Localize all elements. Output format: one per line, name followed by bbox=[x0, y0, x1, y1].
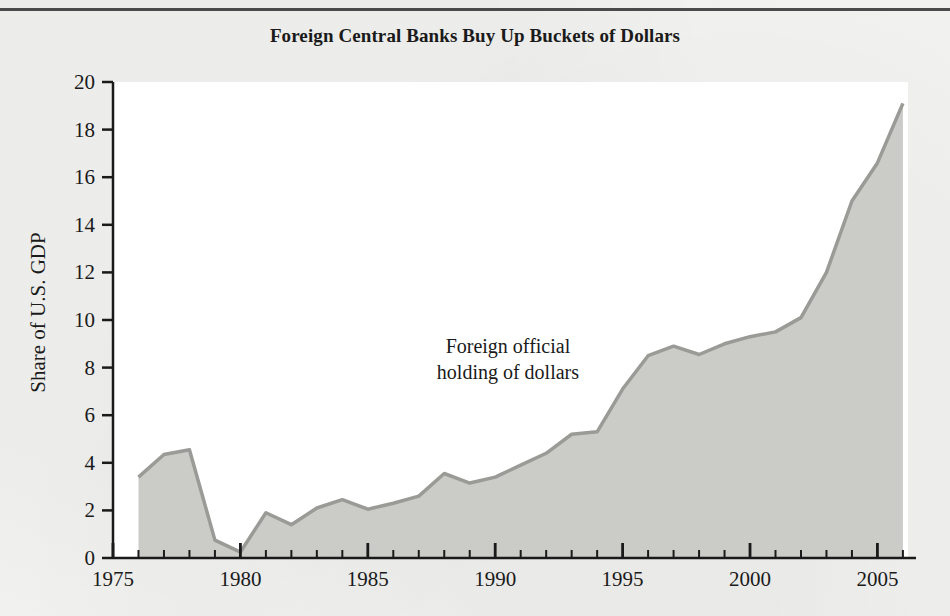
x-tick-label: 1985 bbox=[347, 567, 389, 591]
y-tick-label: 16 bbox=[74, 165, 95, 189]
x-tick-label: 1990 bbox=[474, 567, 516, 591]
y-tick-label: 14 bbox=[74, 213, 96, 237]
annotation-line-2: holding of dollars bbox=[437, 361, 579, 384]
y-axis-label: Share of U.S. GDP bbox=[26, 183, 51, 443]
y-tick-label: 12 bbox=[74, 260, 95, 284]
annotation-line-1: Foreign official bbox=[446, 335, 571, 358]
x-tick-label: 1995 bbox=[602, 567, 644, 591]
y-axis-tick-labels: 02468101214161820 bbox=[74, 70, 96, 570]
y-tick-label: 8 bbox=[85, 356, 96, 380]
x-tick-label: 2005 bbox=[856, 567, 898, 591]
x-tick-label: 1975 bbox=[92, 567, 134, 591]
y-tick-label: 20 bbox=[74, 70, 95, 94]
area-chart: 02468101214161820 1975198019851990199520… bbox=[0, 0, 950, 616]
chart-title: Foreign Central Banks Buy Up Buckets of … bbox=[0, 25, 950, 47]
x-tick-label: 1980 bbox=[219, 567, 261, 591]
y-tick-label: 10 bbox=[74, 308, 95, 332]
x-tick-label: 2000 bbox=[729, 567, 771, 591]
x-axis-tick-labels: 1975198019851990199520002005 bbox=[92, 567, 898, 591]
y-axis bbox=[102, 82, 113, 558]
y-tick-label: 6 bbox=[85, 403, 96, 427]
y-tick-label: 18 bbox=[74, 118, 95, 142]
y-tick-label: 2 bbox=[85, 498, 96, 522]
figure-page: Foreign Central Banks Buy Up Buckets of … bbox=[0, 0, 950, 616]
y-tick-label: 4 bbox=[85, 451, 96, 475]
